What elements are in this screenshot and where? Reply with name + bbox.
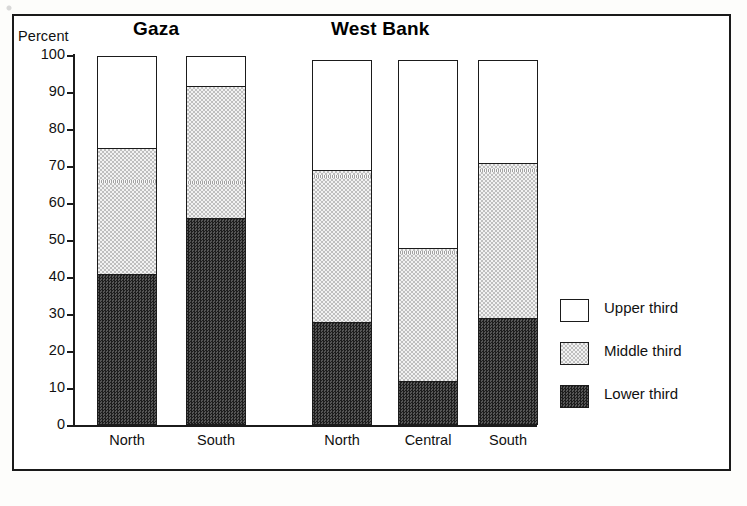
y-tick-label-80: 80 xyxy=(49,120,65,136)
segment-upper-third[interactable] xyxy=(478,60,538,163)
scan-artifact-line xyxy=(98,180,156,183)
scan-artifact-line xyxy=(313,175,371,178)
y-axis-title: Percent xyxy=(18,28,69,44)
segment-middle-third[interactable] xyxy=(478,163,538,318)
legend-swatch-lower-third xyxy=(560,385,589,408)
legend-label-upper-third: Upper third xyxy=(604,299,678,316)
bar-west-bank-south[interactable] xyxy=(478,60,538,425)
legend-label-middle-third: Middle third xyxy=(604,342,682,359)
segment-middle-third[interactable] xyxy=(186,86,246,219)
y-tick-40 xyxy=(67,277,75,279)
y-tick-label-0: 0 xyxy=(57,416,65,432)
segment-upper-third[interactable] xyxy=(186,56,246,86)
y-tick-0 xyxy=(67,425,75,427)
x-label-west-bank-central: Central xyxy=(394,432,462,448)
y-tick-70 xyxy=(67,166,75,168)
segment-middle-third[interactable] xyxy=(97,148,157,274)
plot-area: Percent Gaza West Bank 100 90 80 70 60 5… xyxy=(0,0,747,506)
segment-middle-third[interactable] xyxy=(312,170,372,321)
x-label-gaza-north: North xyxy=(97,432,157,448)
y-tick-50 xyxy=(67,240,75,242)
x-label-gaza-south: South xyxy=(186,432,246,448)
y-tick-60 xyxy=(67,203,75,205)
segment-upper-third[interactable] xyxy=(97,56,157,148)
x-axis-line xyxy=(73,425,537,427)
x-label-west-bank-north: North xyxy=(312,432,372,448)
y-tick-80 xyxy=(67,129,75,131)
group-title-gaza: Gaza xyxy=(133,18,179,40)
segment-lower-third[interactable] xyxy=(398,381,458,425)
y-tick-label-70: 70 xyxy=(49,157,65,173)
scan-artifact-line xyxy=(187,181,245,184)
x-label-west-bank-south: South xyxy=(478,432,538,448)
y-tick-label-50: 50 xyxy=(49,231,65,247)
segment-lower-third[interactable] xyxy=(478,318,538,425)
scan-artifact-line xyxy=(399,251,457,254)
scan-artifact-line xyxy=(479,169,537,172)
segment-upper-third[interactable] xyxy=(312,60,372,171)
bar-west-bank-north[interactable] xyxy=(312,60,372,425)
segment-lower-third[interactable] xyxy=(186,218,246,425)
segment-middle-third[interactable] xyxy=(398,248,458,381)
legend-label-lower-third: Lower third xyxy=(604,385,678,402)
y-tick-20 xyxy=(67,351,75,353)
y-tick-label-40: 40 xyxy=(49,268,65,284)
bar-gaza-south[interactable] xyxy=(186,56,246,425)
y-tick-label-90: 90 xyxy=(49,83,65,99)
chart-page: Percent Gaza West Bank 100 90 80 70 60 5… xyxy=(0,0,747,506)
y-tick-label-10: 10 xyxy=(49,379,65,395)
y-tick-10 xyxy=(67,388,75,390)
bar-gaza-north[interactable] xyxy=(97,56,157,425)
y-tick-label-100: 100 xyxy=(41,46,65,62)
segment-lower-third[interactable] xyxy=(312,322,372,425)
y-tick-label-20: 20 xyxy=(49,342,65,358)
legend-swatch-middle-third xyxy=(560,342,589,365)
y-tick-90 xyxy=(67,92,75,94)
segment-upper-third[interactable] xyxy=(398,60,458,248)
y-tick-30 xyxy=(67,314,75,316)
group-title-west-bank: West Bank xyxy=(331,18,430,40)
legend-swatch-upper-third xyxy=(560,299,589,322)
y-tick-label-60: 60 xyxy=(49,194,65,210)
bar-west-bank-central[interactable] xyxy=(398,60,458,425)
y-tick-100 xyxy=(67,55,75,57)
segment-lower-third[interactable] xyxy=(97,274,157,425)
y-tick-label-30: 30 xyxy=(49,305,65,321)
